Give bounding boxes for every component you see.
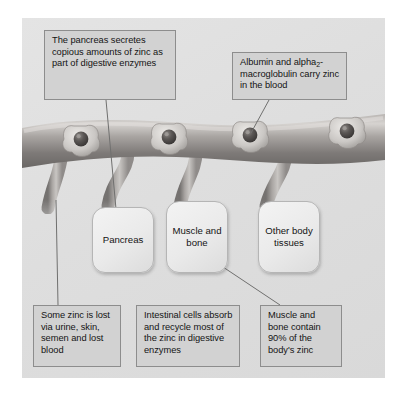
callout-text-muscle-bone-90-percent: Muscle and bone contain 90% of the body'… <box>268 310 321 355</box>
callout-subscript-albumin: 2 <box>316 61 320 68</box>
callout-text-intestinal-cells: Intestinal cells absorb and recycle most… <box>144 310 232 355</box>
callout-some-zinc-lost: Some zinc is lost via urine, skin, semen… <box>33 305 121 367</box>
tissue-box-pancreas[interactable]: Pancreas <box>92 207 154 273</box>
callout-text-some-zinc-lost: Some zinc is lost via urine, skin, semen… <box>41 310 110 355</box>
tissue-box-other-body-tissues[interactable]: Other body tissues <box>258 201 320 273</box>
tissue-label-other-body-tissues: Other body tissues <box>259 225 319 249</box>
callout-text-albumin-part1: Albumin and alpha <box>240 57 316 67</box>
callout-albumin: Albumin and alpha2-macroglobulin carry z… <box>232 52 347 100</box>
callout-pancreas-secretes: The pancreas secretes copious amounts of… <box>44 30 176 100</box>
callout-intestinal-cells: Intestinal cells absorb and recycle most… <box>136 305 240 367</box>
tissue-label-pancreas: Pancreas <box>101 234 146 246</box>
callout-muscle-bone-90-percent: Muscle and bone contain 90% of the body'… <box>260 305 342 367</box>
callout-text-pancreas-secretes: The pancreas secretes copious amounts of… <box>52 35 163 68</box>
tissue-box-muscle-and-bone[interactable]: Muscle and bone <box>166 201 228 273</box>
zinc-metabolism-figure: Pancreas Muscle and bone Other body tiss… <box>0 0 406 395</box>
tissue-label-muscle-and-bone: Muscle and bone <box>167 225 227 249</box>
